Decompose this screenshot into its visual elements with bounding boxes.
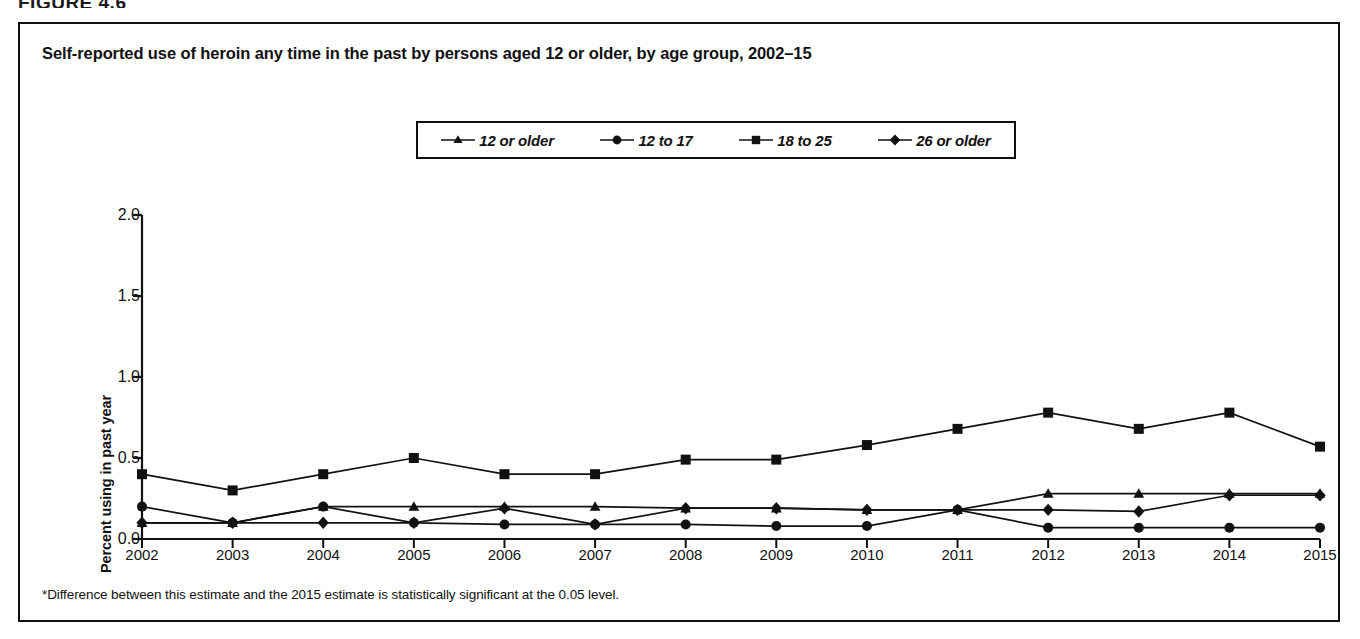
x-axis-tick-label: 2015 [1303, 546, 1336, 563]
x-axis-tick-label: 2009 [760, 546, 793, 563]
x-axis-tick-label: 2008 [669, 546, 702, 563]
x-axis-tick-label: 2003 [216, 546, 249, 563]
series-18-to-25 [137, 408, 1325, 496]
chart-canvas [20, 24, 1342, 624]
x-axis-tick-label: 2012 [1031, 546, 1064, 563]
x-axis-tick-label: 2010 [850, 546, 883, 563]
chart-footnote: *Difference between this estimate and th… [42, 587, 619, 602]
series-12-to-17 [137, 502, 1325, 533]
figure-label: FIGURE 4.6 [18, 0, 126, 8]
x-axis-tick-label: 2005 [397, 546, 430, 563]
x-axis-tick-label: 2006 [488, 546, 521, 563]
x-axis-tick-label: 2014 [1213, 546, 1246, 563]
x-axis-tick-label: 2007 [578, 546, 611, 563]
plot-area: Percent using in past year 0.00.51.01.52… [20, 24, 1342, 624]
x-axis-tick-label: 2013 [1122, 546, 1155, 563]
figure-panel: Self-reported use of heroin any time in … [18, 22, 1340, 622]
x-axis-tick-label: 2004 [307, 546, 340, 563]
x-axis-tick-label: 2011 [941, 546, 973, 563]
x-axis-tick-label: 2002 [125, 546, 158, 563]
